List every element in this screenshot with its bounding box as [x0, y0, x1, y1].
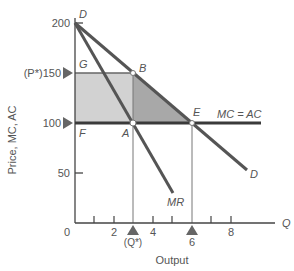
x-ticks [94, 216, 231, 223]
point-a [130, 120, 136, 126]
x-label-8: 8 [228, 226, 234, 238]
p-star-marker-icon [63, 67, 73, 79]
y-label-200: 200 [52, 17, 70, 29]
y-label-150: (P*)150 [24, 67, 61, 79]
x-label-6: 6 [189, 236, 195, 248]
label-a: A [121, 127, 129, 139]
demand-end-label: D [250, 168, 258, 180]
y-label-50: 50 [58, 167, 70, 179]
point-e [190, 121, 195, 126]
label-g: G [79, 58, 88, 70]
profit-rectangle [75, 73, 133, 123]
label-f: F [79, 127, 87, 139]
q6-marker-icon [186, 225, 198, 235]
monopoly-chart: 200 (P*)150 100 50 Price, MC, AC 0 2 4 6… [0, 0, 294, 271]
x-axis-title: Output [155, 254, 188, 266]
label-d-top: D [79, 8, 87, 20]
mr-label: MR [167, 196, 184, 208]
point-b [131, 71, 136, 76]
mc-ac-label: MC = AC [217, 108, 262, 120]
y-label-100: 100 [43, 117, 61, 129]
x-label-0: 0 [64, 226, 70, 238]
q-axis-end-label: Q [282, 217, 291, 229]
q-star-label: (Q*) [124, 237, 142, 248]
label-b: B [139, 62, 146, 74]
q-star-marker-icon [127, 225, 139, 235]
y-axis-title: Price, MC, AC [6, 105, 18, 174]
x-label-4: 4 [150, 226, 156, 238]
x-label-2: 2 [111, 226, 117, 238]
p-100-marker-icon [63, 117, 73, 129]
label-e: E [193, 106, 201, 118]
